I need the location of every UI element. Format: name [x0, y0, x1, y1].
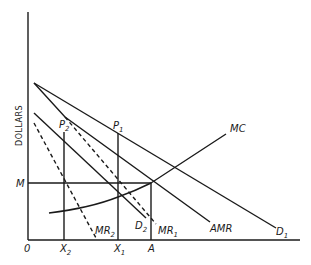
d2-label: D2 — [135, 220, 148, 234]
origin-label: 0 — [24, 243, 30, 254]
mc-curve — [49, 134, 226, 213]
x1-label: X1 — [113, 243, 125, 257]
mr2-label: MR2 — [95, 225, 116, 239]
mc-label: MC — [230, 123, 246, 134]
mr1-label: MR1 — [158, 225, 178, 239]
d1-label: D1 — [276, 226, 288, 240]
a-label: A — [147, 243, 155, 254]
x2-label: X2 — [59, 243, 72, 257]
d1-demand-curve — [34, 83, 276, 228]
y-axis-title: DOLLARS — [15, 105, 24, 146]
amr-label: AMR — [209, 223, 232, 234]
amr-curve — [34, 83, 210, 222]
m-label: M — [16, 178, 25, 189]
price-discrimination-diagram: DOLLARS MC P1 P2 M D2 MR1 MR2 AMR D1 0 X… — [0, 0, 311, 265]
mr2-curve — [34, 123, 96, 238]
p2-label: P2 — [59, 119, 70, 133]
d2-demand-curve — [34, 113, 146, 218]
